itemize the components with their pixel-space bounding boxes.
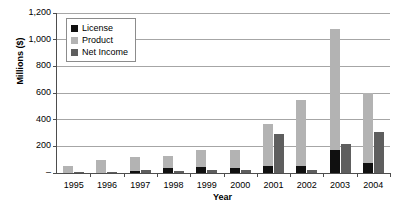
bar-net-income (207, 170, 217, 173)
x-axis-tick-mark (157, 173, 158, 177)
legend-item: Net Income (71, 46, 128, 58)
bar-group (224, 13, 257, 173)
bar-product (96, 160, 106, 173)
legend-swatch-icon (71, 25, 78, 32)
x-axis-title: Year (56, 192, 389, 202)
y-axis-tick-label: 1,000 (5, 34, 51, 44)
legend-swatch-icon (71, 49, 78, 56)
bar-license (330, 150, 340, 173)
bar-net-income (274, 134, 284, 173)
x-axis-tick-mark (124, 173, 125, 177)
bar-license (196, 167, 206, 173)
y-axis-tick-label: 600 (5, 87, 51, 97)
y-axis-tick-label: 1,200 (5, 7, 51, 17)
bar-license (263, 166, 273, 173)
x-axis-tick-mark (224, 173, 225, 177)
bar-product (363, 93, 373, 173)
legend-item: Product (71, 34, 128, 46)
y-axis-tick-label: – (5, 167, 51, 177)
bar-group (357, 13, 390, 173)
bar-license (296, 166, 306, 173)
bar-net-income (341, 144, 351, 173)
x-axis-tick-mark (190, 173, 191, 177)
y-axis-tick-label: 200 (5, 140, 51, 150)
bar-license (230, 168, 240, 173)
bar-group (157, 13, 190, 173)
legend-swatch-icon (71, 37, 78, 44)
legend-item-label: Product (82, 34, 113, 46)
bar-net-income (74, 172, 84, 173)
bar-license (163, 168, 173, 173)
bar-license (363, 163, 373, 173)
bar-net-income (307, 170, 317, 173)
bar-product (63, 166, 73, 173)
legend-item-label: Net Income (82, 46, 128, 58)
bar-net-income (107, 172, 117, 173)
bar-product (296, 100, 306, 173)
x-axis-tick-mark (357, 173, 358, 177)
x-axis-tick-mark (257, 173, 258, 177)
x-axis-tick-mark (290, 173, 291, 177)
bar-group (190, 13, 223, 173)
bar-net-income (374, 132, 384, 173)
bar-group (323, 13, 356, 173)
bar-net-income (241, 170, 251, 173)
bar-group (257, 13, 290, 173)
bar-group (290, 13, 323, 173)
x-axis-tick-mark (90, 173, 91, 177)
y-axis-tick-label: 800 (5, 60, 51, 70)
bar-net-income (141, 170, 151, 173)
y-axis-tick-label: 400 (5, 114, 51, 124)
bar-net-income (174, 171, 184, 173)
x-axis-tick-label: 2004 (351, 180, 395, 190)
x-axis-tick-mark (323, 173, 324, 177)
legend-item-label: License (82, 22, 113, 34)
bar-chart: Millions ($) –2004006008001,0001,2001995… (0, 0, 401, 209)
legend-item: License (71, 22, 128, 34)
chart-legend: LicenseProductNet Income (66, 18, 136, 62)
bar-license (130, 171, 140, 173)
x-axis-tick-mark (390, 173, 391, 177)
